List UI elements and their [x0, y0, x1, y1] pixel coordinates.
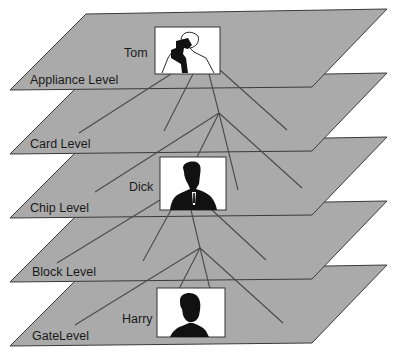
label-gate-level: GateLevel [32, 329, 89, 343]
photo-dick [160, 157, 226, 210]
label-tom: Tom [124, 46, 148, 60]
label-card-level: Card Level [30, 137, 90, 151]
label-harry: Harry [122, 312, 153, 326]
label-chip-level: Chip Level [30, 201, 89, 215]
design-level-diagram: Appliance Level Card Level Chip Level Bl… [0, 0, 395, 356]
photo-tom [155, 27, 220, 74]
photo-harry [157, 288, 225, 337]
label-block-level: Block Level [32, 265, 96, 279]
label-dick: Dick [129, 180, 154, 194]
label-appliance-level: Appliance Level [30, 73, 118, 87]
